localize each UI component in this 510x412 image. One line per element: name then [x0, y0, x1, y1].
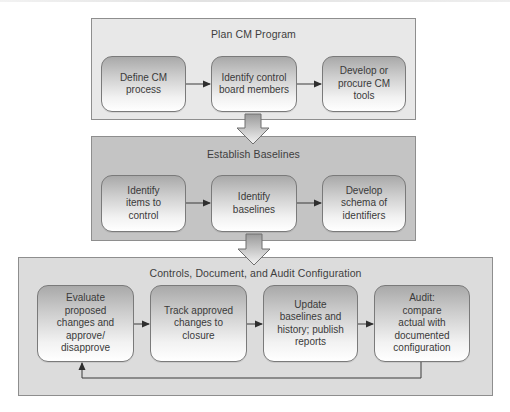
step-audit: Audit: compare actual with documented co… [374, 285, 470, 362]
phase-title: Establish Baselines [92, 148, 415, 160]
step-label: Identify baselines [233, 191, 275, 216]
step-update-baselines: Update baselines and history; publish re… [263, 285, 358, 362]
step-track-changes: Track approved changes to closure [150, 285, 247, 362]
phase-title: Controls, Document, and Audit Configurat… [19, 267, 492, 279]
step-label: Update baselines and history; publish re… [277, 299, 344, 349]
step-develop-schema: Develop schema of identifiers [322, 175, 406, 232]
step-identify-baselines: Identify baselines [211, 175, 297, 232]
step-label: Identify items to control [126, 185, 161, 223]
step-develop-cm-tools: Develop or procure CM tools [322, 56, 406, 112]
step-label: Identify control board members [219, 72, 289, 97]
step-identify-items: Identify items to control [101, 175, 186, 232]
step-label: Audit: compare actual with documented co… [393, 292, 450, 355]
top-edge-strip [0, 0, 510, 2]
step-label: Define CM process [120, 72, 167, 97]
step-label: Develop schema of identifiers [341, 185, 387, 223]
step-label: Evaluate proposed changes and approve/ d… [57, 292, 114, 355]
step-evaluate-changes: Evaluate proposed changes and approve/ d… [37, 285, 134, 362]
step-label: Track approved changes to closure [164, 305, 233, 343]
phase-title: Plan CM Program [92, 28, 415, 40]
step-identify-control-board: Identify control board members [211, 56, 297, 112]
step-define-cm-process: Define CM process [101, 56, 186, 112]
step-label: Develop or procure CM tools [338, 65, 390, 103]
